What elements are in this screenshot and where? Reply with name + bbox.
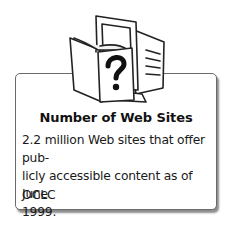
book-and-computer-question-icon [66, 10, 170, 104]
card-source: OCLC [22, 188, 56, 202]
card-body: 2.2 million Web sites that offer pub- li… [22, 131, 212, 221]
card-title: Number of Web Sites [15, 110, 217, 125]
body-line: 1999. [22, 203, 212, 221]
body-line: 2.2 million Web sites that offer pub- [22, 131, 212, 167]
